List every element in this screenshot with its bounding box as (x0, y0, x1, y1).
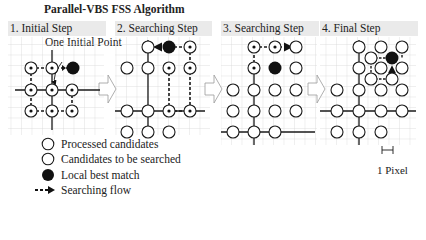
legend-item-processed: Processed candidates (40, 136, 181, 152)
legend-label: Processed candidates (61, 138, 158, 150)
pixel-scale-icon (382, 146, 393, 154)
search-flow-arrow-icon (34, 183, 56, 197)
legend-item-candidates: Candidates to be searched (40, 152, 181, 168)
legend-label: Candidates to be searched (61, 153, 181, 165)
best-match-dot-icon (40, 168, 56, 182)
panel-1-best-match (67, 62, 80, 75)
legend-label: Local best match (61, 169, 140, 181)
legend-item-search-flow: Searching flow (40, 183, 181, 199)
panel-4-best-match (386, 52, 399, 65)
panel-2-best-match (163, 41, 176, 54)
legend-item-best-match: Local best match (40, 167, 181, 183)
panel-3-best-match (269, 62, 282, 75)
panel-2-grid (115, 37, 210, 135)
legend: Processed candidates Candidates to be se… (40, 136, 181, 198)
pixel-scale-label: 1 Pixel (377, 164, 408, 176)
processed-circle-icon (40, 137, 56, 151)
candidate-circle-icon (40, 152, 56, 166)
legend-label: Searching flow (61, 184, 131, 196)
